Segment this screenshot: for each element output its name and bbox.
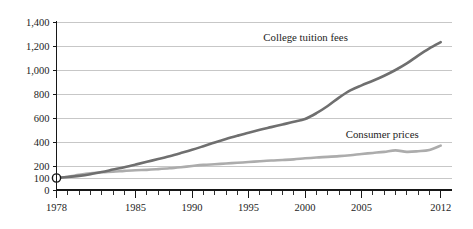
y-axis-tick-label: 200 [34,161,50,172]
annotation-college-tuition-fees: College tuition fees [263,31,348,43]
x-axis-tick-label: 1990 [182,202,203,213]
x-axis-tick-label: 2005 [351,202,372,213]
x-axis-tick-label: 1978 [46,202,67,213]
y-axis-tick-label: 800 [34,89,50,100]
y-axis-tick-label: 100 [34,173,50,184]
x-axis-tick-label: 1985 [125,202,146,213]
annotation-consumer-prices: Consumer prices [346,128,419,140]
x-axis-tick-label: 2012 [430,202,451,213]
x-axis-tick-label: 1995 [238,202,259,213]
y-axis-tick-label: 600 [34,113,50,124]
y-axis-tick-label: 1,400 [26,17,50,28]
chart-container: 01002004006008001,0001,2001,400 19781985… [0,0,473,229]
y-axis-tick-label: 1,000 [26,65,50,76]
line-chart: 01002004006008001,0001,2001,400 19781985… [0,0,473,229]
chart-background [0,0,473,229]
y-axis-tick-label: 400 [34,137,50,148]
y-axis-tick-label: 1,200 [26,41,50,52]
y-axis-tick-label: 0 [44,185,49,196]
x-axis-tick-label: 2000 [295,202,316,213]
